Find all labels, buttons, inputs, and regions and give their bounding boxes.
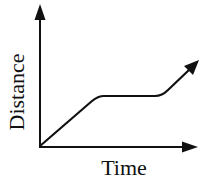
distance-time-curve <box>40 69 190 146</box>
x-axis-label: Time <box>94 155 154 181</box>
x-axis-arrow-icon <box>182 142 198 153</box>
y-axis-arrow-icon <box>35 4 46 20</box>
distance-time-chart: Distance Time <box>0 0 207 186</box>
y-axis-label: Distance <box>5 47 29 137</box>
